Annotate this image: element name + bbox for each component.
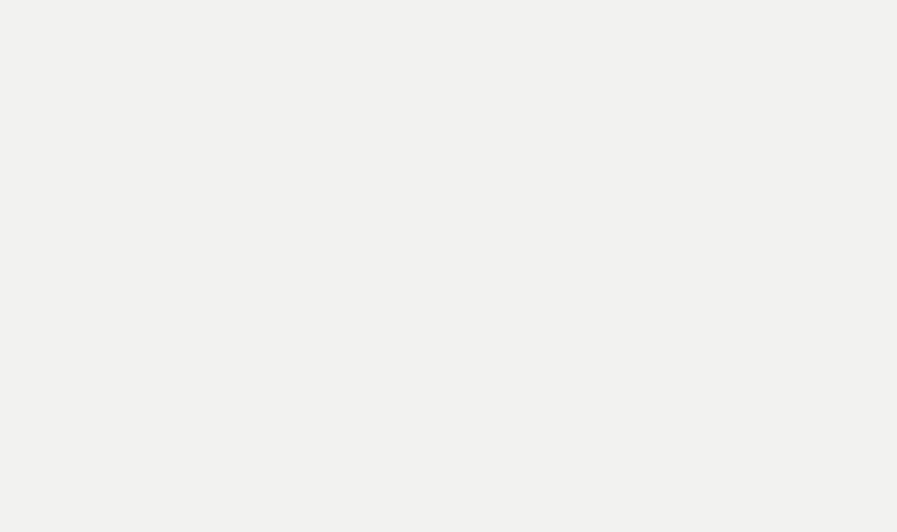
mesh-network-diagram [0, 0, 897, 532]
diagram-background [17, 24, 429, 181]
